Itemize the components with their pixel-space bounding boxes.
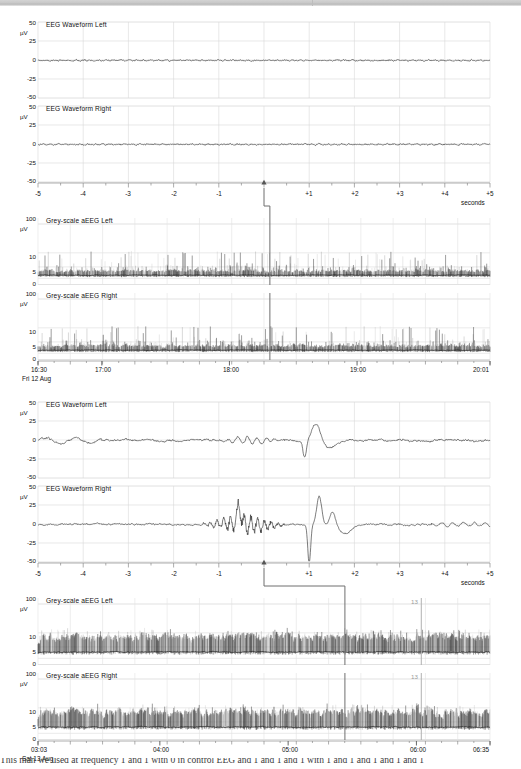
aeeg-left-ytick-0-top: 0 xyxy=(8,280,36,287)
aeeg-left-plot-bottom[interactable] xyxy=(38,598,490,665)
aeeg-date-top: Fri 12 Aug xyxy=(22,375,51,382)
eeg-right-ytick-0-top: 0 xyxy=(12,140,36,147)
eeg-right-plot-top[interactable] xyxy=(38,106,490,182)
aeeg-left-trace-top xyxy=(38,218,490,285)
aeeg-left-trace-bottom xyxy=(38,598,490,665)
eeg-right-unit-top: µV xyxy=(20,113,28,120)
eeg-left-unit-bottom: µV xyxy=(20,409,28,416)
eeg-right-ytick-50-bottom: 50 xyxy=(12,483,36,490)
aeeg-right-ytick-100-top: 100 xyxy=(8,290,36,297)
aeeg-left-ytick-0-bottom: 0 xyxy=(8,660,36,667)
eeg-right-ytick-m25-top: -25 xyxy=(12,159,36,166)
aeeg-right-ytick-100-bottom: 100 xyxy=(8,670,36,677)
eeg-right-ytick-m50-top: -50 xyxy=(12,177,36,184)
figure-caption-text: This man we used at frequency 1 and 1 wi… xyxy=(0,758,521,765)
aeeg-xtick-3-top: 19:00 xyxy=(343,366,373,373)
eeg-left-plot-top[interactable] xyxy=(38,22,490,98)
eeg-left-ytick-m25-bottom: -25 xyxy=(12,455,36,462)
aeeg-xtick-1-top: 17:00 xyxy=(88,366,118,373)
aeeg-right-plot-bottom[interactable] xyxy=(38,673,490,740)
eeg-left-ytick-0-bottom: 0 xyxy=(12,436,36,443)
eeg-left-title-bottom: EEG Waveform Left xyxy=(46,401,107,408)
aeeg-right-ytick-0-bottom: 0 xyxy=(8,735,36,742)
aeeg-right-plot-top[interactable] xyxy=(38,293,490,360)
window-titlebar xyxy=(0,0,521,6)
aeeg-left-ytick-100-top: 100 xyxy=(8,215,36,222)
aeeg-right-trace-bottom xyxy=(38,673,490,740)
aeeg-xtick-2-bottom: 05:00 xyxy=(275,746,305,753)
aeeg-left-unit-top: µV xyxy=(20,225,28,232)
eeg-right-trace-bottom xyxy=(38,486,490,562)
epoch-connector-bottom xyxy=(0,566,521,600)
eeg-right-trace-top xyxy=(38,106,490,182)
aeeg-left-ytick-5-top: 5 xyxy=(8,268,36,275)
aeeg-right-annotation-13: 13 xyxy=(411,673,418,680)
aeeg-xtick-1-bottom: 04:00 xyxy=(146,746,176,753)
eeg-right-title-bottom: EEG Waveform Right xyxy=(46,485,111,492)
aeeg-right-title-bottom: Grey-scale aEEG Right xyxy=(46,672,117,679)
aeeg-left-unit-bottom: µV xyxy=(20,605,28,612)
aeeg-right-ytick-0-top: 0 xyxy=(8,355,36,362)
eeg-right-ytick-50-top: 50 xyxy=(12,103,36,110)
aeeg-right-ytick-5-top: 5 xyxy=(8,343,36,350)
aeeg-xtick-4-top: 20:01 xyxy=(466,366,496,373)
aeeg-left-ytick-10-top: 10 xyxy=(8,253,36,260)
recording-panel-bottom: EEG Waveform Left µV 50 25 0 -25 -50 EEG… xyxy=(0,398,521,758)
aeeg-right-unit-top: µV xyxy=(20,300,28,307)
aeeg-xtick-0-top: 16:30 xyxy=(24,366,54,373)
eeg-left-ytick-50-bottom: 50 xyxy=(12,399,36,406)
aeeg-left-plot-top[interactable] xyxy=(38,218,490,285)
eeg-right-unit-bottom: µV xyxy=(20,493,28,500)
figure-caption: This man we used at frequency 1 and 1 wi… xyxy=(0,758,521,769)
aeeg-left-ytick-5-bottom: 5 xyxy=(8,648,36,655)
eeg-right-ytick-0-bottom: 0 xyxy=(12,520,36,527)
aeeg-right-unit-bottom: µV xyxy=(20,680,28,687)
eeg-left-title-top: EEG Waveform Left xyxy=(46,21,107,28)
eeg-left-ytick-m25-top: -25 xyxy=(12,75,36,82)
aeeg-left-ytick-100-bottom: 100 xyxy=(8,595,36,602)
aeeg-right-title-top: Grey-scale aEEG Right xyxy=(46,292,117,299)
aeeg-left-ytick-10-bottom: 10 xyxy=(8,633,36,640)
eeg-right-ytick-25-bottom: 25 xyxy=(12,501,36,508)
eeg-left-plot-bottom[interactable] xyxy=(38,402,490,478)
eeg-right-ytick-m25-bottom: -25 xyxy=(12,539,36,546)
aeeg-left-annotation-13: 13 xyxy=(411,598,418,605)
eeg-left-ytick-50-top: 50 xyxy=(12,19,36,26)
eeg-left-trace-top xyxy=(38,22,490,98)
aeeg-left-title-bottom: Grey-scale aEEG Left xyxy=(46,597,113,604)
titlebar-divider xyxy=(312,0,313,6)
eeg-left-trace-bottom xyxy=(38,402,490,478)
aeeg-right-ytick-5-bottom: 5 xyxy=(8,723,36,730)
eeg-left-ytick-25-top: 25 xyxy=(12,37,36,44)
eeg-right-plot-bottom[interactable] xyxy=(38,486,490,562)
aeeg-right-ytick-10-top: 10 xyxy=(8,328,36,335)
eeg-right-ytick-25-top: 25 xyxy=(12,121,36,128)
aeeg-right-trace-top xyxy=(38,293,490,360)
eeg-left-ytick-0-top: 0 xyxy=(12,56,36,63)
eeg-right-ytick-m50-bottom: -50 xyxy=(12,557,36,564)
eeg-left-ytick-m50-bottom: -50 xyxy=(12,473,36,480)
aeeg-xtick-3-bottom: 06:00 xyxy=(403,746,433,753)
aeeg-xtick-2-top: 18:00 xyxy=(216,366,246,373)
epoch-connector-top xyxy=(0,186,521,220)
eeg-left-ytick-25-bottom: 25 xyxy=(12,417,36,424)
aeeg-xtick-4-bottom: 06:35 xyxy=(466,746,496,753)
aeeg-left-title-top: Grey-scale aEEG Left xyxy=(46,217,113,224)
eeg-right-title-top: EEG Waveform Right xyxy=(46,105,111,112)
aeeg-right-ytick-10-bottom: 10 xyxy=(8,708,36,715)
eeg-left-unit-top: µV xyxy=(20,29,28,36)
aeeg-xtick-0-bottom: 03:03 xyxy=(24,746,54,753)
eeg-left-ytick-m50-top: -50 xyxy=(12,93,36,100)
recording-panel-top: EEG Waveform Left µV 50 25 0 -25 -50 EEG… xyxy=(0,18,521,373)
